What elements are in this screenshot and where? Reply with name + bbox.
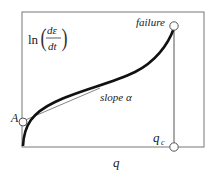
svg-text:q: q (153, 130, 160, 145)
intercept-label: A (10, 111, 19, 125)
y-axis-label: ln ( dε dt ) (28, 23, 68, 52)
critical-label: q c (153, 130, 165, 147)
slope-label: slope α (100, 91, 132, 103)
svg-text:): ) (62, 23, 68, 52)
failure-label: failure (136, 16, 165, 28)
svg-text:(: ( (41, 23, 47, 52)
failure-point (170, 22, 178, 30)
svg-text:ln: ln (28, 32, 39, 47)
x-axis-label: q (113, 155, 120, 170)
creep-rate-diagram: ln ( dε dt ) failure slope α A q c q (0, 0, 216, 184)
svg-text:dε: dε (47, 24, 58, 36)
critical-point (170, 143, 178, 151)
svg-text:c: c (161, 138, 165, 147)
svg-text:dt: dt (48, 40, 58, 52)
intercept-point-A (19, 118, 27, 126)
